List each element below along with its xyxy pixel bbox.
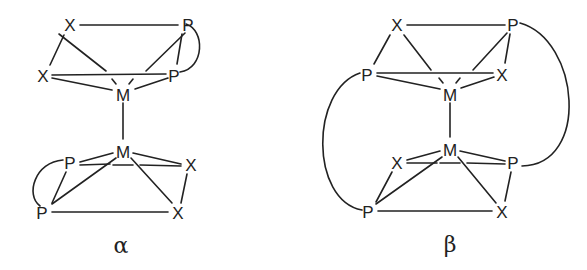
atom-p: P — [168, 67, 179, 86]
beta-structure: X P P X M M X P P X β — [323, 16, 569, 257]
bond — [129, 79, 133, 84]
bond — [181, 174, 187, 203]
atom-p: P — [362, 203, 373, 222]
isomer-label-beta: β — [444, 232, 457, 257]
bond — [112, 79, 116, 84]
atom-x: X — [496, 203, 507, 222]
atom-x: X — [37, 67, 48, 86]
bond — [59, 34, 106, 71]
bond — [404, 35, 431, 70]
atom-m: M — [116, 143, 130, 162]
bond — [133, 153, 181, 164]
isomer-label-alpha: α — [114, 233, 129, 258]
atom-x: X — [391, 154, 402, 173]
atom-p: P — [507, 154, 518, 173]
atom-p: P — [507, 16, 518, 35]
atom-p: P — [36, 204, 47, 223]
atom-p: P — [361, 66, 372, 85]
bond — [376, 157, 442, 204]
bond — [140, 165, 181, 166]
atom-m: M — [443, 141, 457, 160]
bond — [467, 163, 505, 164]
bond — [473, 33, 507, 70]
bond — [50, 35, 64, 65]
atom-p: P — [64, 154, 75, 173]
atom-x: X — [172, 204, 183, 223]
atom-x: X — [64, 16, 75, 35]
bond — [377, 76, 440, 89]
bond — [407, 151, 440, 160]
isomer-diagram: X P X P M M P X P X α — [0, 0, 587, 270]
atom-m: M — [116, 86, 130, 105]
atom-x: X — [391, 16, 402, 35]
atom-p: P — [182, 16, 193, 35]
atom-m: M — [443, 86, 457, 105]
bond — [439, 78, 443, 83]
atom-x: X — [496, 66, 507, 85]
bond — [135, 78, 168, 89]
chelate-arc — [323, 73, 362, 210]
bond — [505, 172, 511, 201]
bond — [52, 78, 112, 90]
chelate-arc — [520, 23, 569, 166]
bond — [374, 35, 390, 64]
atom-x: X — [185, 156, 196, 175]
bond — [80, 153, 113, 162]
bond — [460, 151, 505, 161]
bond — [505, 34, 510, 63]
bond — [52, 74, 166, 75]
bond — [456, 78, 460, 83]
bond — [461, 77, 494, 88]
alpha-structure: X P X P M M P X P X α — [33, 16, 200, 258]
